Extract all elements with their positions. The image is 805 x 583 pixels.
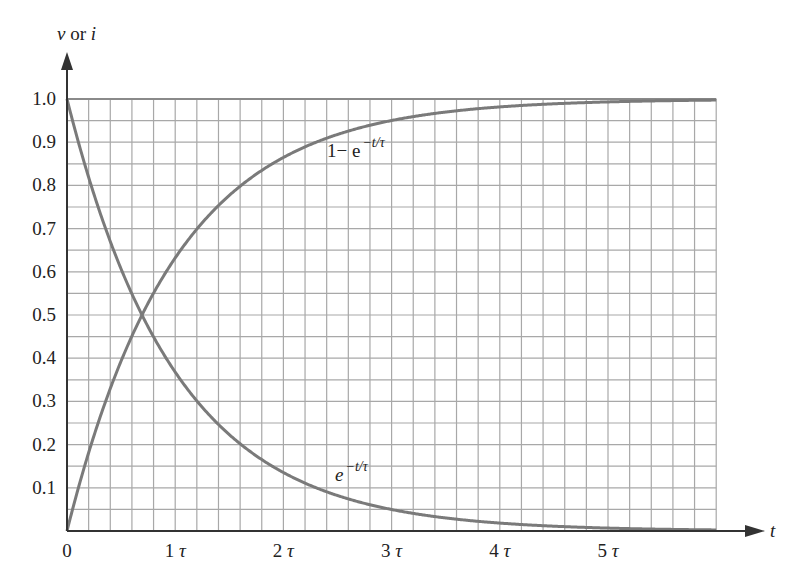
chart: 1.00.90.80.70.60.50.40.30.20.1 01 τ2 τ3 … xyxy=(0,0,805,583)
y-tick-label: 0.9 xyxy=(32,131,56,152)
y-tick-label: 0.1 xyxy=(32,477,56,498)
x-tick-label: 1 τ xyxy=(165,540,187,561)
y-tick-label: 0.5 xyxy=(32,304,56,325)
x-tick-labels: 01 τ2 τ3 τ4 τ5 τ xyxy=(62,540,619,561)
x-axis-title: t xyxy=(770,520,776,541)
y-tick-label: 0.2 xyxy=(32,434,56,455)
x-tick-label: 5 τ xyxy=(597,540,619,561)
x-tick-label: 4 τ xyxy=(489,540,511,561)
x-tick-label: 3 τ xyxy=(381,540,403,561)
y-tick-label: 0.3 xyxy=(32,390,56,411)
x-axis-arrow-icon xyxy=(745,525,765,537)
y-axis-title: v or i xyxy=(57,23,96,44)
y-axis-arrow-icon xyxy=(61,52,73,70)
x-tick-label: 0 xyxy=(62,540,72,561)
x-tick-label: 2 τ xyxy=(273,540,295,561)
grid xyxy=(67,99,716,531)
y-tick-labels: 1.00.90.80.70.60.50.40.30.20.1 xyxy=(32,88,56,498)
y-tick-label: 0.8 xyxy=(32,174,56,195)
y-tick-label: 1.0 xyxy=(32,88,56,109)
curve-label-rise: 1− e−t/τ xyxy=(327,135,386,161)
y-tick-label: 0.7 xyxy=(32,218,56,239)
y-tick-label: 0.4 xyxy=(32,347,56,368)
y-tick-label: 0.6 xyxy=(32,261,56,282)
curve-label-decay: e−t/τ xyxy=(335,459,369,485)
